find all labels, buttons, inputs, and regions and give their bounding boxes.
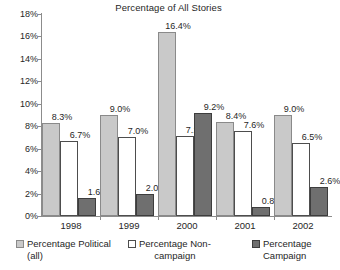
legend-label-campaign: PercentageCampaign bbox=[263, 238, 312, 261]
y-axis-tick-label: 0% bbox=[8, 211, 38, 221]
x-axis-tick-mark bbox=[274, 216, 275, 220]
bar bbox=[274, 115, 292, 216]
x-axis-category-label: 2002 bbox=[292, 220, 313, 231]
y-axis-tick-mark bbox=[38, 194, 42, 195]
bar-value-label: 9.2% bbox=[204, 102, 225, 112]
legend-item-percentage-non-campaign: Percentage Non-campaign bbox=[128, 238, 211, 261]
bar-value-label: 7.6% bbox=[244, 120, 265, 130]
bar bbox=[234, 131, 252, 216]
bar-value-label: 6.5% bbox=[302, 132, 323, 142]
y-axis-tick-label: 12% bbox=[8, 76, 38, 86]
y-axis-tick-label: 6% bbox=[8, 144, 38, 154]
x-axis-category-label: 1998 bbox=[60, 220, 81, 231]
plot-area: 8.3%6.7%1.6%9.0%7.0%2.0%16.4%7.1%9.2%8.4… bbox=[42, 14, 332, 216]
x-axis-tick-mark bbox=[100, 216, 101, 220]
bar bbox=[194, 113, 212, 216]
x-axis-tick-mark bbox=[158, 216, 159, 220]
x-axis-category-label: 2000 bbox=[176, 220, 197, 231]
bar bbox=[78, 198, 96, 216]
bar-value-label: 2.6% bbox=[320, 176, 340, 186]
bar bbox=[100, 115, 118, 216]
x-axis-category-label: 2001 bbox=[234, 220, 255, 231]
bar bbox=[216, 122, 234, 216]
legend-item-percentage-political: Percentage Political(all) bbox=[16, 238, 111, 261]
y-axis-tick-mark bbox=[38, 126, 42, 127]
x-axis-tick-mark bbox=[216, 216, 217, 220]
y-axis-tick-mark bbox=[38, 149, 42, 150]
bar-value-label: 7.0% bbox=[128, 126, 149, 136]
legend-label-political: Percentage Political(all) bbox=[27, 238, 111, 261]
y-axis-tick-label: 10% bbox=[8, 99, 38, 109]
chart-legend: Percentage Political(all) Percentage Non… bbox=[0, 238, 337, 270]
y-axis-tick-label: 14% bbox=[8, 54, 38, 64]
bar-value-label: 9.0% bbox=[284, 104, 305, 114]
bar-value-label: 6.7% bbox=[70, 130, 91, 140]
y-axis-tick-mark bbox=[38, 171, 42, 172]
y-axis-tick-label: 16% bbox=[8, 31, 38, 41]
x-axis-category-label: 1999 bbox=[118, 220, 139, 231]
legend-swatch-icon-non-campaign bbox=[128, 240, 136, 248]
legend-swatch-icon-campaign bbox=[252, 240, 260, 248]
bar bbox=[176, 136, 194, 216]
bar bbox=[136, 194, 154, 216]
y-axis-tick-label: 18% bbox=[8, 9, 38, 19]
bar bbox=[252, 207, 270, 216]
legend-label-non-campaign: Percentage Non-campaign bbox=[139, 238, 211, 261]
bar bbox=[118, 137, 136, 216]
y-axis-tick-mark bbox=[38, 59, 42, 60]
bar bbox=[310, 187, 328, 216]
bar bbox=[60, 141, 78, 216]
bar-value-label: 16.4% bbox=[165, 21, 191, 31]
bar bbox=[158, 32, 176, 216]
bar-value-label: 8.3% bbox=[52, 112, 73, 122]
y-axis-tick-label: 4% bbox=[8, 166, 38, 176]
bar bbox=[292, 143, 310, 216]
legend-item-percentage-campaign: PercentageCampaign bbox=[252, 238, 312, 261]
page-title: Percentage of All Stories bbox=[0, 2, 337, 13]
x-axis-line bbox=[41, 216, 332, 217]
y-axis-tick-mark bbox=[38, 104, 42, 105]
bar bbox=[42, 123, 60, 216]
y-axis-tick-label: 2% bbox=[8, 189, 38, 199]
y-axis-labels: 0%2%4%6%8%10%12%14%16%18% bbox=[0, 0, 38, 270]
y-axis-tick-mark bbox=[38, 216, 42, 217]
y-axis-tick-label: 8% bbox=[8, 121, 38, 131]
bar-value-label: 9.0% bbox=[110, 104, 131, 114]
y-axis-tick-mark bbox=[38, 36, 42, 37]
legend-swatch-icon-political bbox=[16, 240, 24, 248]
y-axis-tick-mark bbox=[38, 14, 42, 15]
y-axis-tick-mark bbox=[38, 81, 42, 82]
